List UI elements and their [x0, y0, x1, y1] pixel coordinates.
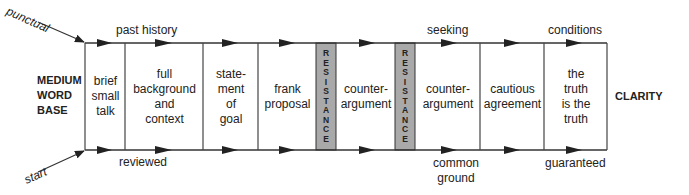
stage-cautious-agreement: cautiousagreement: [481, 43, 544, 150]
annotation-past-history: past history: [116, 23, 177, 38]
end-label: CLARITY: [615, 89, 663, 104]
resistance-block-2: RESISTANCE: [395, 43, 415, 150]
stage-statement-of-goal: state-mentofgoal: [204, 43, 258, 150]
annotation-seeking: seeking: [427, 23, 468, 38]
annotation-reviewed: reviewed: [119, 155, 167, 170]
start-label: MEDIUM WORD BASE: [37, 73, 85, 118]
stage-frank-proposal: frankproposal: [259, 43, 316, 150]
stage-counter-argument-1: counter-argument: [337, 43, 395, 150]
annotation-conditions: conditions: [548, 23, 602, 38]
stage-counter-argument-2: counter-argument: [416, 43, 480, 150]
stage-truth: thetruthis thetruth: [545, 43, 607, 150]
resistance-block-1: RESISTANCE: [316, 43, 336, 150]
stage-brief-small-talk: briefsmalltalk: [86, 43, 125, 150]
stage-full-background: fullbackgroundandcontext: [126, 43, 203, 150]
annotation-common-ground: common ground: [425, 156, 487, 186]
annotation-guaranteed: guaranteed: [545, 156, 606, 171]
